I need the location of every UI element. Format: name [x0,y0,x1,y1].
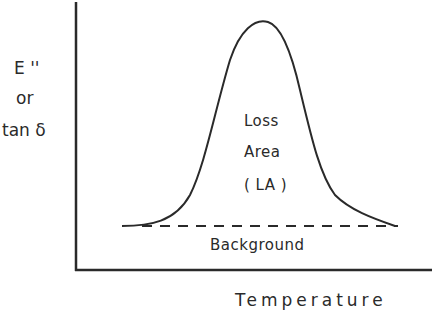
x-axis-label: Temperature [235,290,387,310]
background-label: Background [210,236,305,254]
loss-label: Loss [244,112,279,130]
la-label: ( LA ) [244,176,287,194]
area-label: Area [244,143,281,161]
